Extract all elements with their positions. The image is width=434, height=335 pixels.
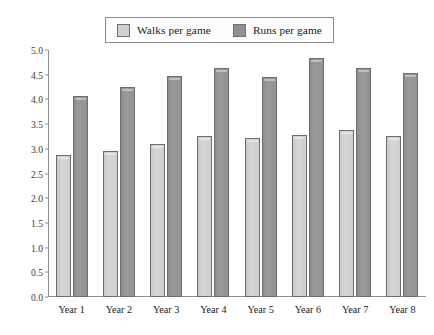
bar-runs[interactable] [120,87,135,297]
x-axis-category-label: Year 4 [200,304,226,315]
y-axis-tick-label: 2.0 [31,193,43,204]
bar-walks[interactable] [292,135,307,297]
bar-walks[interactable] [245,138,260,297]
bar-walks[interactable] [386,136,401,297]
bar-highlight [341,132,352,134]
y-axis-tick-label: 3.5 [31,119,43,130]
bar-highlight [169,78,180,80]
bar-highlight [358,70,369,72]
bar-group: Year 4 [190,50,237,297]
bar-runs[interactable] [403,73,418,297]
x-axis-category-label: Year 1 [58,304,84,315]
bar-highlight [388,138,399,140]
bar-walks[interactable] [339,130,354,297]
chart-legend: Walks per game Runs per game [105,17,334,43]
y-axis-tick-label: 0.0 [31,292,43,303]
x-axis-category-label: Year 2 [106,304,132,315]
y-axis-tick-label: 3.0 [31,143,43,154]
x-axis-category-label: Year 7 [342,304,368,315]
bar-runs[interactable] [214,68,229,297]
bar-runs[interactable] [309,58,324,297]
bar-highlight [216,70,227,72]
legend-label-runs: Runs per game [253,24,322,36]
bar-highlight [152,146,163,148]
y-axis-tick-label: 0.5 [31,267,43,278]
bar-highlight [294,137,305,139]
bar-group: Year 2 [95,50,142,297]
bar-chart: Walks per game Runs per game 0.00.51.01.… [0,0,434,335]
y-axis-tick-label: 1.0 [31,242,43,253]
bar-walks[interactable] [56,155,71,297]
bar-runs[interactable] [356,68,371,297]
bar-group: Year 1 [48,50,95,297]
bar-runs[interactable] [262,77,277,297]
x-axis-category-label: Year 5 [247,304,273,315]
bar-highlight [264,79,275,81]
y-axis-tick-label: 2.5 [31,168,43,179]
y-axis-tick-label: 5.0 [31,45,43,56]
bar-highlight [58,157,69,159]
plot-area: 0.00.51.01.52.02.53.03.54.04.55.0 Year 1… [48,50,426,297]
bar-highlight [199,138,210,140]
bar-group: Year 6 [284,50,331,297]
bar-runs[interactable] [73,96,88,297]
bar-group: Year 3 [143,50,190,297]
bar-highlight [311,60,322,62]
y-axis-tick-label: 4.0 [31,94,43,105]
legend-swatch-walks-icon [117,24,130,37]
legend-label-walks: Walks per game [137,24,211,36]
legend-swatch-runs-icon [233,24,246,37]
x-axis-category-label: Year 8 [389,304,415,315]
x-axis-category-label: Year 6 [295,304,321,315]
x-axis-category-label: Year 3 [153,304,179,315]
bar-highlight [247,140,258,142]
bar-highlight [405,75,416,77]
y-axis-tick-label: 1.5 [31,217,43,228]
bar-group: Year 5 [237,50,284,297]
legend-item-walks-per-game[interactable]: Walks per game [117,24,211,37]
bar-highlight [122,89,133,91]
bar-group: Year 8 [379,50,426,297]
legend-item-runs-per-game[interactable]: Runs per game [233,24,322,37]
bar-walks[interactable] [103,151,118,297]
bar-walks[interactable] [197,136,212,297]
bar-walks[interactable] [150,144,165,297]
bar-highlight [75,98,86,100]
bar-highlight [105,153,116,155]
bar-group: Year 7 [332,50,379,297]
bar-group-container: Year 1Year 2Year 3Year 4Year 5Year 6Year… [48,50,426,297]
bar-runs[interactable] [167,76,182,297]
y-axis-tick-label: 4.5 [31,69,43,80]
